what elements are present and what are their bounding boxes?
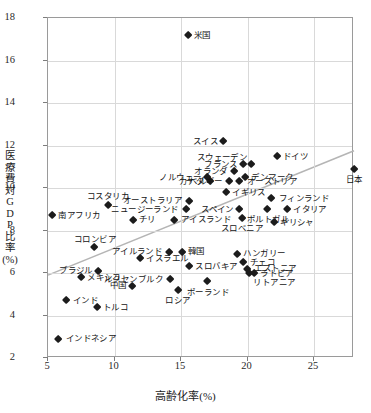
data-point-label: スロベニア bbox=[221, 224, 263, 232]
x-axis-tick-mark bbox=[180, 357, 181, 361]
y-axis-tick-mark bbox=[43, 102, 47, 103]
plot-area: 米国スイスドイツスウェーデンフランスオランダデンマークオーストリアノルウェーカナ… bbox=[47, 17, 353, 357]
x-axis-tick-label: 5 bbox=[32, 361, 62, 371]
data-point-label: 南アフリカ bbox=[58, 211, 100, 219]
scatter-chart: 医療費対GDP比率(%) 米国スイスドイツスウェーデンフランスオランダデンマーク… bbox=[0, 0, 371, 413]
x-axis-tick-mark bbox=[313, 357, 314, 361]
data-point-label: スロバキア bbox=[195, 262, 237, 270]
x-axis-tick-label: 15 bbox=[165, 361, 195, 371]
data-point-label: オーストリア bbox=[246, 177, 297, 185]
y-axis-tick-label: 12 bbox=[0, 140, 15, 150]
data-point-label: アイスランド bbox=[181, 216, 232, 224]
data-point-label: 韓国 bbox=[188, 248, 205, 256]
y-axis-tick-mark bbox=[43, 60, 47, 61]
y-axis-tick-label: 2 bbox=[0, 352, 15, 362]
x-axis-tick-label: 10 bbox=[99, 361, 129, 371]
x-axis-tick-mark bbox=[114, 357, 115, 361]
data-point-label: ベルギー bbox=[189, 177, 223, 185]
y-axis-tick-label: 4 bbox=[0, 310, 15, 320]
data-point-label: チリ bbox=[139, 216, 156, 224]
y-axis-tick-mark bbox=[43, 230, 47, 231]
data-point-label: イスラエル bbox=[146, 254, 188, 262]
x-axis-tick-label: 25 bbox=[298, 361, 328, 371]
gridline-horizontal bbox=[48, 231, 352, 232]
gridline-horizontal bbox=[48, 103, 352, 104]
y-axis-tick-label: 16 bbox=[0, 55, 15, 65]
data-point-label: ラトビア bbox=[260, 269, 294, 277]
data-point-label: 日本 bbox=[346, 175, 363, 183]
x-axis-label: 高齢化率(%) bbox=[0, 387, 371, 403]
data-point-label: スイス bbox=[192, 137, 217, 145]
data-point-label: ロシア bbox=[166, 296, 191, 304]
gridline-horizontal bbox=[48, 188, 352, 189]
y-axis-tick-mark bbox=[43, 145, 47, 146]
x-axis-tick-mark bbox=[47, 357, 48, 361]
gridline-vertical bbox=[314, 18, 315, 356]
data-point-label: 米国 bbox=[193, 31, 210, 39]
x-axis-tick-label: 20 bbox=[232, 361, 262, 371]
y-axis-tick-label: 10 bbox=[0, 182, 15, 192]
data-point-label: 中国 bbox=[109, 282, 126, 290]
y-axis-label: 医療費対GDP比率(%) bbox=[2, 150, 18, 265]
data-point-label: ポーランド bbox=[186, 288, 228, 296]
data-point-label: イギリス bbox=[232, 188, 266, 196]
gridline-vertical bbox=[181, 18, 182, 356]
y-axis-tick-mark bbox=[43, 17, 47, 18]
data-point-label: コロンビア bbox=[73, 235, 115, 243]
data-point-label: ドイツ bbox=[283, 152, 308, 160]
y-axis-tick-label: 14 bbox=[0, 97, 15, 107]
gridline-horizontal bbox=[48, 316, 352, 317]
data-point-label: ニュージーランド bbox=[112, 205, 180, 213]
data-point-label: インドネシア bbox=[65, 335, 116, 343]
data-point-label: トルコ bbox=[103, 303, 128, 311]
data-point-label: リトアニア bbox=[253, 278, 295, 286]
y-axis-tick-mark bbox=[43, 187, 47, 188]
data-point-label: インド bbox=[72, 296, 97, 304]
x-axis-tick-mark bbox=[247, 357, 248, 361]
data-point-label: ギリシャ bbox=[280, 218, 314, 226]
y-axis-tick-label: 6 bbox=[0, 267, 15, 277]
data-point-label: イタリア bbox=[294, 205, 328, 213]
y-axis-tick-mark bbox=[43, 315, 47, 316]
y-axis-tick-label: 8 bbox=[0, 225, 15, 235]
gridline-horizontal bbox=[48, 61, 352, 62]
y-axis-tick-mark bbox=[43, 272, 47, 273]
data-point-label: コスタリカ bbox=[87, 192, 129, 200]
data-point-label: スペイン bbox=[201, 205, 234, 213]
data-point-label: フィンランド bbox=[278, 194, 329, 202]
y-axis-tick-label: 18 bbox=[0, 12, 15, 22]
